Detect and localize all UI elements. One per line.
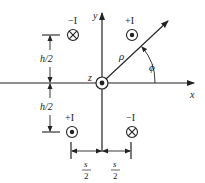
- source-upper-right: +I: [125, 15, 138, 41]
- phi-label: ϕ: [149, 61, 155, 73]
- dimension-h-half-bottom: h/2: [40, 84, 60, 132]
- phi-angle: ϕ: [142, 47, 155, 83]
- source-label: +I: [65, 112, 74, 123]
- svg-text:s: s: [113, 159, 117, 169]
- source-label: −I: [126, 112, 135, 123]
- source-lower-right: −I: [126, 112, 138, 138]
- source-upper-left: −I: [68, 15, 79, 41]
- dot-in-circle-icon: [100, 81, 105, 86]
- source-label: −I: [68, 15, 77, 26]
- s-half-label-right: s 2: [111, 159, 120, 181]
- dot-in-circle-icon: [70, 130, 74, 134]
- dimension-s-half: s 2 s 2: [71, 142, 131, 181]
- x-axis-label: x: [189, 89, 195, 100]
- current-filaments-diagram: x y z ρ ϕ −I +I +I: [0, 0, 205, 183]
- y-axis-label: y: [92, 10, 98, 21]
- svg-text:2: 2: [84, 171, 89, 181]
- svg-text:2: 2: [113, 171, 118, 181]
- svg-text:s: s: [84, 159, 88, 169]
- source-label: +I: [125, 15, 134, 26]
- z-label: z: [87, 72, 92, 83]
- dimension-h-half-top: h/2: [40, 35, 60, 82]
- h-half-label-top: h/2: [40, 53, 53, 64]
- dot-in-circle-icon: [130, 33, 134, 37]
- rho-label: ρ: [118, 50, 124, 62]
- origin-source: z: [87, 72, 108, 89]
- source-lower-left: +I: [65, 112, 78, 138]
- s-half-label-left: s 2: [82, 159, 91, 181]
- rho-vector: ρ: [106, 21, 168, 79]
- h-half-label-bottom: h/2: [40, 101, 53, 112]
